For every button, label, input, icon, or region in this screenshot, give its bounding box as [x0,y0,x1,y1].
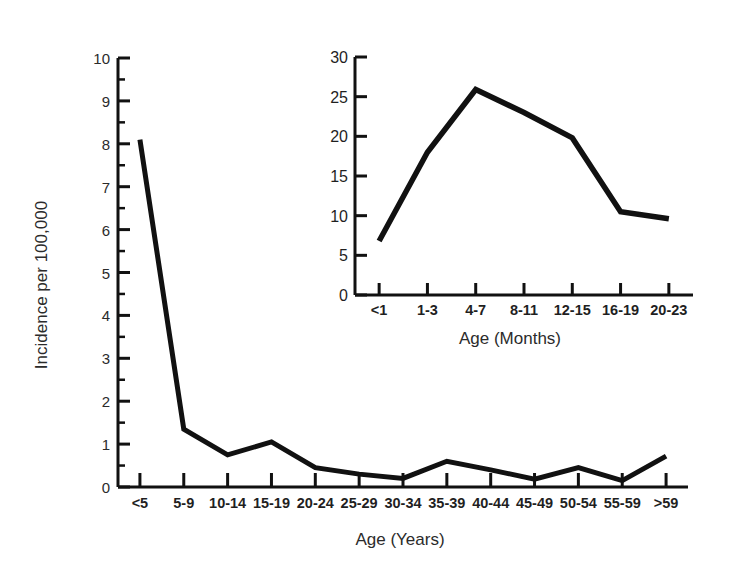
main-x-tick-label: 55-59 [604,495,641,511]
main-x-tick-label: 50-54 [560,495,597,511]
main-y-tick-label: 4 [102,307,110,324]
main-x-tick-label: 15-19 [253,495,290,511]
main-x-tick-label: 20-24 [297,495,334,511]
main-x-tick-label: 30-34 [384,495,421,511]
main-y-tick-label: 7 [102,179,110,196]
main-y-tick-label: 8 [102,136,110,153]
inset-y-tick-label: 5 [339,247,348,264]
incidence-by-age-figure: Incidence per 100,000 Age (Years) 012345… [0,0,740,582]
main-x-tick-label: >59 [654,495,679,511]
inset-y-tick-label: 10 [330,208,348,225]
main-y-tick-label: 3 [102,350,110,367]
main-x-axis-title: Age (Years) [355,530,444,549]
inset-x-tick-label: <1 [371,302,388,318]
main-x-tick-label: <5 [132,495,149,511]
inset-y-tick-label: 20 [330,128,348,145]
inset-x-tick-label: 20-23 [650,302,687,318]
main-y-tick-label: 6 [102,222,110,239]
inset-x-tick-label: 1-3 [417,302,438,318]
inset-x-axis-title: Age (Months) [459,329,561,348]
main-y-tick-label: 10 [93,50,110,67]
inset-y-tick-label: 30 [330,49,348,66]
inset-x-tick-label: 16-19 [602,302,639,318]
inset-y-tick-label: 15 [330,168,348,185]
main-x-tick-label: 45-49 [516,495,553,511]
main-x-tick-label: 25-29 [341,495,378,511]
main-y-tick-label: 1 [102,436,110,453]
inset-y-tick-label: 0 [339,287,348,304]
main-x-tick-label: 5-9 [173,495,194,511]
main-y-tick-label: 2 [102,393,110,410]
main-y-tick-label: 9 [102,93,110,110]
inset-x-tick-label: 8-11 [510,302,538,318]
main-x-tick-label: 10-14 [209,495,246,511]
main-x-tick-label: 40-44 [472,495,509,511]
inset-x-tick-label: 12-15 [554,302,591,318]
main-y-tick-label: 5 [102,265,110,282]
main-y-axis-title: Incidence per 100,000 [32,201,51,369]
inset-y-tick-label: 25 [330,89,348,106]
main-y-tick-label: 0 [102,479,110,496]
main-x-tick-label: 35-39 [428,495,465,511]
inset-x-tick-label: 4-7 [465,302,486,318]
